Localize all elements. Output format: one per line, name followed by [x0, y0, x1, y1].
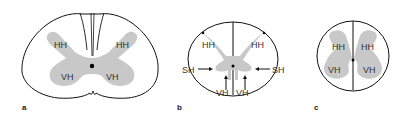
panel-a-cross-section: HH HH VH VH a: [22, 13, 158, 112]
panel-b-label-sh-left: SH: [182, 65, 195, 75]
panel-b-dorsal-root-dot-left: [202, 32, 205, 35]
panel-b-dorsal-root-dot-right: [263, 32, 266, 35]
panel-c-label-hh-left: HH: [332, 42, 345, 52]
panel-a-central-canal: [90, 64, 94, 68]
spinal-cord-cross-sections-figure: HH HH VH VH a HH HH SH SH VH: [0, 0, 410, 119]
panel-c-label-vh-right: VH: [363, 65, 376, 75]
panel-c-label-hh-right: HH: [361, 42, 374, 52]
panel-b-central-canal: [232, 65, 235, 68]
panel-c-cross-section: HH HH VH VH c: [314, 21, 389, 112]
panel-a-label-hh-right: HH: [116, 40, 129, 50]
panel-b-label-hh-left: HH: [202, 40, 215, 50]
panel-a-label-hh-left: HH: [54, 40, 67, 50]
panel-a-label-vh-right: VH: [106, 72, 119, 82]
panel-a-label-vh-left: VH: [61, 72, 74, 82]
panel-a-letter: a: [22, 103, 27, 112]
panel-b-letter: b: [177, 103, 182, 112]
panel-c-central-canal: [352, 59, 355, 62]
panel-c-label-vh-left: VH: [328, 65, 341, 75]
panel-b-label-hh-right: HH: [251, 40, 264, 50]
panel-c-letter: c: [314, 103, 319, 112]
panel-b-label-sh-right: SH: [272, 65, 285, 75]
panel-b-label-vh-left: VH: [216, 88, 229, 98]
panel-b-label-vh-right: VH: [236, 88, 249, 98]
panel-a-white-matter-outline: [22, 14, 158, 99]
panel-b-cross-section: HH HH SH SH VH VH b: [177, 22, 285, 112]
